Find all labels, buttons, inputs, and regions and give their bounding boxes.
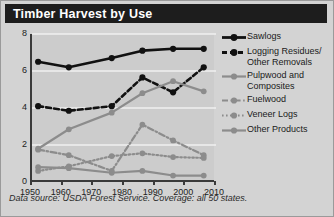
data-point xyxy=(201,88,207,94)
series-line-1 xyxy=(38,67,204,110)
data-point xyxy=(170,46,176,52)
legend-dot xyxy=(231,34,238,41)
page-title: Timber Harvest by Use xyxy=(5,7,152,21)
data-point xyxy=(66,126,72,132)
series-line-5 xyxy=(38,167,204,175)
legend-marker-icon xyxy=(221,110,247,121)
series-line-2 xyxy=(38,81,204,149)
data-point xyxy=(170,137,176,143)
source-note: Data source: USDA Forest Service. Covera… xyxy=(9,193,329,203)
data-point xyxy=(140,122,146,128)
x-tick-mark xyxy=(122,181,124,185)
data-point xyxy=(201,46,207,52)
legend-dot xyxy=(231,127,237,133)
x-tick-mark xyxy=(153,181,155,185)
legend-marker-icon xyxy=(221,71,247,82)
y-tick-label: 0 xyxy=(15,177,27,186)
legend-item[interactable]: Logging Residues/ Other Removals xyxy=(221,46,333,67)
legend-label: Veneer Logs xyxy=(247,109,298,120)
series-line-3 xyxy=(38,125,204,171)
legend-marker-icon xyxy=(221,47,247,58)
data-point xyxy=(140,168,146,174)
x-tick-mark xyxy=(61,181,63,185)
data-point xyxy=(140,150,146,156)
legend-marker-icon xyxy=(221,32,247,43)
legend-label: Logging Residues/ Other Removals xyxy=(247,46,322,67)
legend-marker-icon xyxy=(221,125,247,136)
data-point xyxy=(139,74,145,80)
data-point xyxy=(140,90,146,96)
y-tick-label: 8 xyxy=(15,29,27,38)
legend-item[interactable]: Sawlogs xyxy=(221,31,333,43)
data-point xyxy=(35,59,41,65)
y-tick-label: 4 xyxy=(15,103,27,112)
data-point xyxy=(109,103,115,109)
data-point xyxy=(66,108,72,114)
y-tick-label: 2 xyxy=(15,140,27,149)
legend-item[interactable]: Other Products xyxy=(221,124,333,136)
data-point xyxy=(201,155,207,161)
card-header: Timber Harvest by Use xyxy=(5,4,327,23)
legend-item[interactable]: Veneer Logs xyxy=(221,109,333,121)
data-point xyxy=(66,64,72,70)
data-point xyxy=(66,152,72,158)
data-point xyxy=(109,55,115,61)
data-point xyxy=(139,48,145,54)
legend-dot xyxy=(231,73,237,79)
y-axis-ticks: 02468 xyxy=(13,34,27,182)
legend-dot xyxy=(231,112,237,118)
data-point xyxy=(35,164,41,170)
legend-label: Sawlogs xyxy=(247,31,281,42)
x-tick-mark xyxy=(30,181,32,185)
legend-label: Pulpwood and Composites xyxy=(247,70,304,91)
series-line-0 xyxy=(38,49,204,68)
data-point xyxy=(109,170,115,176)
data-point xyxy=(35,147,41,153)
data-point xyxy=(201,173,207,179)
data-point xyxy=(109,153,115,159)
legend-item[interactable]: Fuelwood xyxy=(221,94,333,106)
data-point xyxy=(170,154,176,160)
chart-card: Timber Harvest by Use Billion Cubic Feet… xyxy=(0,0,334,217)
plot-area xyxy=(30,34,214,182)
x-tick-mark xyxy=(91,181,93,185)
chart-svg xyxy=(32,34,216,182)
legend-marker-icon xyxy=(221,95,247,106)
chart-container: Billion Cubic Feet per Year 02468 195019… xyxy=(5,27,327,190)
data-point xyxy=(201,64,207,70)
data-point xyxy=(170,89,176,95)
chart-legend: SawlogsLogging Residues/ Other RemovalsP… xyxy=(221,31,333,139)
data-point xyxy=(109,110,115,116)
y-tick-label: 6 xyxy=(15,66,27,75)
data-point xyxy=(170,78,176,84)
data-point xyxy=(170,173,176,179)
legend-dot xyxy=(231,49,238,56)
x-tick-mark xyxy=(214,181,216,185)
data-point xyxy=(35,103,41,109)
legend-dot xyxy=(231,97,237,103)
data-point xyxy=(66,165,72,171)
legend-label: Fuelwood xyxy=(247,94,286,105)
legend-item[interactable]: Pulpwood and Composites xyxy=(221,70,333,91)
legend-label: Other Products xyxy=(247,124,308,135)
x-tick-mark xyxy=(183,181,185,185)
